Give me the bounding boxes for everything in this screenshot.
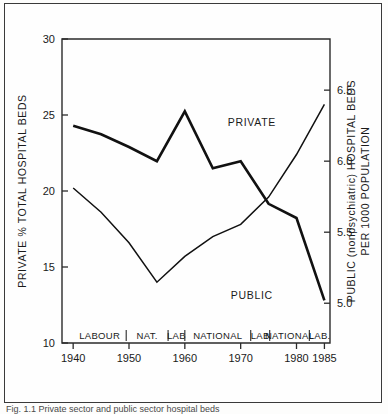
x-axis-tick-label: 1970: [228, 352, 252, 364]
x-axis-tick-label: 1960: [173, 352, 197, 364]
left-axis-tick-label: 25: [43, 109, 55, 121]
figure-container: 10152025305.05.56.06.5194019501960197019…: [0, 0, 388, 414]
chart-plot-area: 10152025305.05.56.06.5194019501960197019…: [0, 0, 388, 414]
govt-band-label: NAT.: [137, 330, 158, 341]
left-axis-tick-label: 20: [43, 185, 55, 197]
govt-band-label: LAB.: [309, 330, 331, 341]
x-axis-tick-label: 1940: [61, 352, 85, 364]
series-line-private: [73, 104, 324, 282]
chart-svg: 10152025305.05.56.06.5194019501960197019…: [0, 0, 388, 414]
govt-band-label: LABOUR: [79, 330, 120, 341]
left-axis-tick-label: 15: [43, 261, 55, 273]
right-axis-title-line2: PER 1000 POPULATION: [359, 126, 371, 255]
series-group: [73, 104, 324, 300]
govt-band-label: LAB: [167, 330, 186, 341]
left-axis-tick-label: 30: [43, 33, 55, 45]
series-annotation-private: PRIVATE: [228, 116, 276, 128]
right-axis-title-line1: PUBLIC (nonpsychiatric) HOSPITAL BEDS: [345, 80, 357, 302]
left-axis-title: PRIVATE % TOTAL HOSPITAL BEDS: [16, 94, 28, 287]
plot-frame: [62, 39, 330, 343]
x-axis-tick-label: 1980: [284, 352, 308, 364]
series-annotation-public: PUBLIC: [231, 289, 273, 301]
series-line-public: [73, 111, 324, 300]
x-axis-tick-label: 1950: [117, 352, 141, 364]
left-axis-tick-label: 10: [43, 337, 55, 349]
govt-band-label: NATIONAL: [193, 330, 242, 341]
govt-band-label: NATIONAL: [265, 330, 314, 341]
axes-group: 10152025305.05.56.06.5194019501960197019…: [16, 33, 371, 364]
x-axis-tick-label: 1985: [312, 352, 336, 364]
figure-caption: Fig. 1.1 Private sector and public secto…: [6, 404, 382, 414]
